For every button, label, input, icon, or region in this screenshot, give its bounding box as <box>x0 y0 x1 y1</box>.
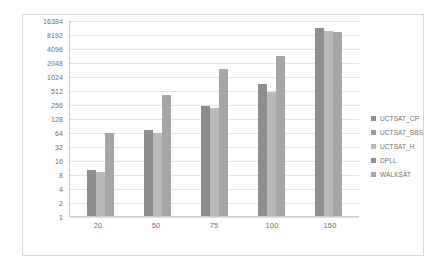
legend-item[interactable]: UCTSAT_CP <box>371 111 446 125</box>
gridline <box>70 217 359 218</box>
x-axis: 205075100150 <box>69 221 359 239</box>
y-axis-tick-label: 8192 <box>47 32 63 39</box>
bar-group <box>201 21 228 216</box>
bar <box>144 130 153 216</box>
legend-swatch-icon <box>371 158 376 163</box>
bar <box>267 92 276 216</box>
legend-item[interactable]: DPLL <box>371 153 446 167</box>
bar-group <box>144 21 171 216</box>
y-axis-tick-label: 2048 <box>47 60 63 67</box>
bar <box>276 56 285 216</box>
bar <box>87 170 96 217</box>
legend-item-label: WALKSAT <box>380 171 411 178</box>
bar <box>96 172 105 216</box>
legend-swatch-icon <box>371 116 376 121</box>
bar <box>210 108 219 216</box>
y-axis-tick-label: 2 <box>59 200 63 207</box>
bar <box>219 69 228 216</box>
legend-swatch-icon <box>371 130 376 135</box>
bar <box>201 106 210 216</box>
y-axis-tick-label: 4096 <box>47 46 63 53</box>
x-axis-tick-label: 100 <box>246 221 298 239</box>
y-axis-tick-label: 8 <box>59 172 63 179</box>
x-axis-tick-label: 50 <box>130 221 182 239</box>
y-axis-tick-label: 1024 <box>47 74 63 81</box>
legend-swatch-icon <box>371 172 376 177</box>
legend-item-label: UCTSAT_CP <box>380 115 419 122</box>
bar <box>153 133 162 216</box>
bar-group <box>87 21 114 216</box>
y-axis-tick-label: 64 <box>55 130 63 137</box>
y-axis-tick-label: 128 <box>51 116 63 123</box>
x-axis-tick-label: 20 <box>72 221 124 239</box>
plot-area <box>69 21 359 217</box>
y-axis-tick-label: 1 <box>59 214 63 221</box>
legend-item[interactable]: WALKSAT <box>371 167 446 181</box>
bar-group <box>315 21 342 216</box>
y-axis-tick-label: 512 <box>51 88 63 95</box>
legend-item-label: UCTSAT_SBS <box>380 129 423 136</box>
chart-legend: UCTSAT_CPUCTSAT_SBSUCTSAT_HDPLLWALKSAT <box>371 111 446 181</box>
legend-item[interactable]: UCTSAT_SBS <box>371 125 446 139</box>
chart-container: 1638481924096204810245122561286432168421… <box>22 14 424 256</box>
x-axis-tick-label: 75 <box>188 221 240 239</box>
y-axis-tick-label: 4 <box>59 186 63 193</box>
bar-series-container <box>70 21 359 216</box>
legend-item-label: UCTSAT_H <box>380 143 415 150</box>
y-axis-tick-label: 16 <box>55 158 63 165</box>
y-axis-tick-label: 32 <box>55 144 63 151</box>
legend-item-label: DPLL <box>380 157 397 164</box>
bar <box>105 133 114 216</box>
legend-swatch-icon <box>371 144 376 149</box>
y-axis-tick-label: 256 <box>51 102 63 109</box>
bar <box>315 28 324 216</box>
bar <box>324 31 333 216</box>
bar <box>162 95 171 216</box>
bar-group <box>258 21 285 216</box>
y-axis-tick-label: 16384 <box>43 18 63 25</box>
bar <box>333 32 342 216</box>
plot-wrapper: 1638481924096204810245122561286432168421… <box>23 15 423 255</box>
x-axis-tick-label: 150 <box>304 221 356 239</box>
bar <box>258 84 267 216</box>
legend-item[interactable]: UCTSAT_H <box>371 139 446 153</box>
y-axis: 1638481924096204810245122561286432168421 <box>23 21 67 217</box>
